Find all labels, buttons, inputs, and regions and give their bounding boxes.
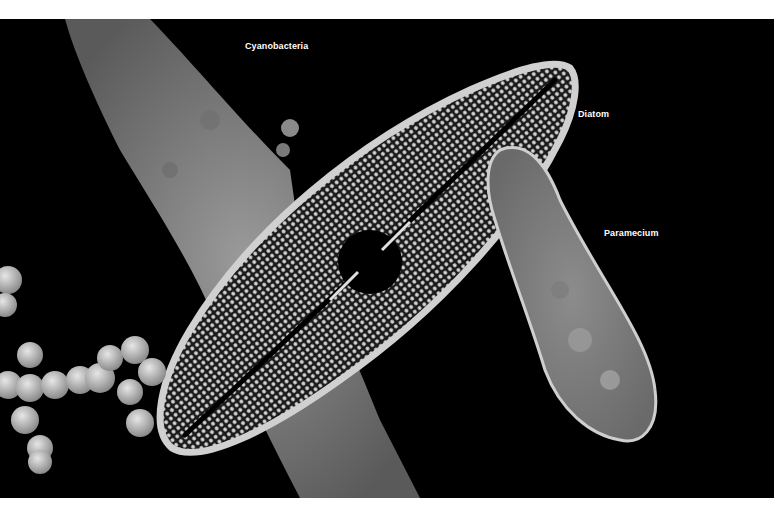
cocci-cluster <box>0 266 166 474</box>
label-paramecium: Paramecium <box>604 228 659 238</box>
label-diatom: Diatom <box>578 109 609 119</box>
paramecium <box>488 147 656 440</box>
micrograph-illustration <box>0 19 774 498</box>
micrograph-frame: Cyanobacteria Diatom Paramecium <box>0 19 774 498</box>
label-cyanobacteria: Cyanobacteria <box>245 41 308 51</box>
